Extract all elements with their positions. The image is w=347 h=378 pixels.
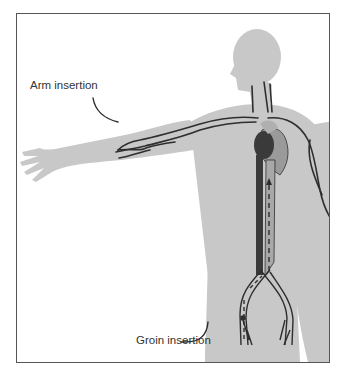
arm-insertion-label: Arm insertion [30,79,98,91]
groin-insertion-label: Groin insertion [136,334,211,346]
aorta [256,155,275,276]
cardiac-catheter-illustration [0,0,347,378]
